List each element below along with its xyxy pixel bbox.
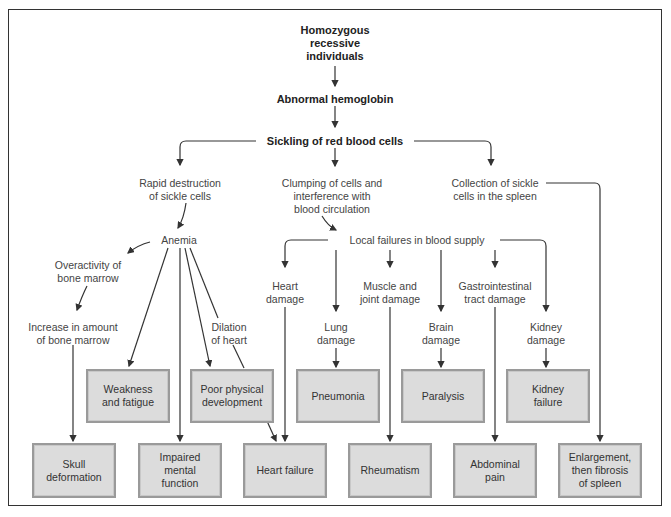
node-brain-damage: Brain damage (422, 321, 460, 347)
outcome-poor-development: Poor physical development (190, 369, 274, 423)
node-lung-damage: Lung damage (317, 321, 355, 347)
outcome-rheumatism: Rheumatism (348, 443, 432, 498)
node-local-failures: Local failures in blood supply (350, 234, 485, 247)
node-overactivity: Overactivity of bone marrow (55, 259, 122, 285)
node-clumping: Clumping of cells and interference with … (282, 177, 382, 216)
node-rapid-destruction: Rapid destruction of sickle cells (139, 177, 221, 203)
outcome-skull-deformation: Skull deformation (32, 443, 116, 498)
outcome-kidney-failure: Kidney failure (506, 369, 590, 423)
outcome-spleen-fibrosis: Enlargement, then fibrosis of spleen (558, 443, 642, 498)
outcome-abdominal-pain: Abdominal pain (453, 443, 537, 498)
outcome-pneumonia: Pneumonia (296, 369, 380, 423)
node-homozygous: Homozygous recessive individuals (300, 24, 369, 63)
node-sickling: Sickling of red blood cells (267, 135, 403, 148)
outcome-heart-failure: Heart failure (243, 443, 327, 498)
node-abnormal-hemoglobin: Abnormal hemoglobin (277, 93, 394, 106)
node-increase-marrow: Increase in amount of bone marrow (28, 321, 117, 347)
outcome-weakness-fatigue: Weakness and fatigue (86, 369, 170, 423)
outcome-impaired-mental: Impaired mental function (138, 443, 222, 498)
node-dilation: Dilation of heart (211, 321, 247, 347)
node-heart-damage: Heart damage (266, 280, 304, 306)
node-gi-damage: Gastrointestinal tract damage (459, 280, 532, 306)
node-kidney-damage: Kidney damage (527, 321, 565, 347)
node-anemia: Anemia (161, 234, 197, 247)
outcome-paralysis: Paralysis (401, 369, 485, 423)
diagram-frame (8, 9, 662, 506)
node-muscle-joint-damage: Muscle and joint damage (360, 280, 420, 306)
node-spleen-collection: Collection of sickle cells in the spleen (452, 177, 539, 203)
